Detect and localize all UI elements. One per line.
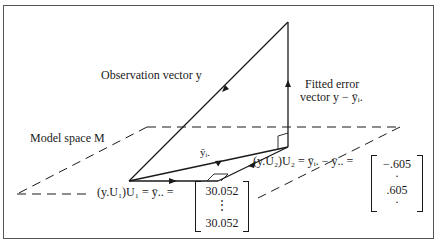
matrix-u2-dot2: · — [371, 196, 423, 208]
projection-u2-label: (y.U₂)U₂ = ȳᵢ. − ȳ.. = — [253, 155, 353, 168]
right-angle-marker — [278, 133, 288, 149]
projection-u1-label: (y.U₁)U₁ = ȳ.. = — [97, 186, 173, 199]
group-mean-arrow-icon — [215, 160, 223, 167]
fitted-error-label-line2: vector y − ȳᵢ. — [300, 91, 363, 104]
group-mean-label: ȳᵢ. — [200, 146, 210, 159]
matrix-u2: −.605 · .605 · — [371, 155, 423, 212]
matrix-u1-top: 30.052 — [195, 185, 249, 197]
matrix-u1: 30.052 ⋮ 30.052 — [195, 181, 249, 232]
grand-mean-arrow-icon — [169, 178, 177, 184]
matrix-u2-dot1: · — [371, 170, 423, 182]
matrix-u1-bottom: 30.052 — [195, 217, 249, 229]
parallelogram-marker — [207, 174, 228, 181]
observation-vector-label: Observation vector y — [101, 69, 202, 82]
model-space-label: Model space M — [30, 132, 105, 145]
matrix-u1-ellipsis: ⋮ — [195, 199, 249, 211]
fitted-error-arrow-icon — [285, 80, 291, 87]
